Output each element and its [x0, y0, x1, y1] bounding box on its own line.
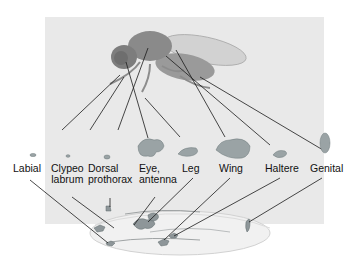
disc-genital	[320, 133, 330, 153]
adult-fly	[110, 29, 249, 92]
label-eye-antenna: Eye,antenna	[139, 163, 177, 185]
label-leg: Leg	[182, 163, 200, 174]
line-fly-leg	[145, 98, 180, 137]
imaginal-disc-diagram	[0, 0, 361, 259]
label-clypeo-labrum: Clypeolabrum	[51, 163, 84, 185]
line-larva-clypeo	[72, 197, 114, 228]
disc-haltere	[273, 151, 287, 158]
line-fly-haltere	[166, 56, 270, 145]
label-dorsal-prothorax: Dorsalprothorax	[88, 163, 132, 185]
disc-wing	[216, 139, 250, 158]
line-larva-labial	[30, 180, 108, 243]
line-fly-genital	[200, 77, 323, 150]
label-labial: Labial	[13, 163, 41, 174]
line-larva-genital	[249, 178, 322, 222]
label-genital: Genital	[310, 163, 343, 174]
disc-labial	[30, 153, 36, 156]
line-fly-clypeo	[90, 77, 124, 130]
disc-leg	[178, 148, 198, 157]
disc-eye-antenna	[138, 139, 164, 157]
line-fly-labial	[62, 75, 120, 130]
disc-clypeo-labrum	[66, 155, 70, 158]
disc-dorsal-prothorax	[104, 155, 110, 159]
label-wing: Wing	[219, 163, 243, 174]
label-haltere: Haltere	[265, 163, 299, 174]
